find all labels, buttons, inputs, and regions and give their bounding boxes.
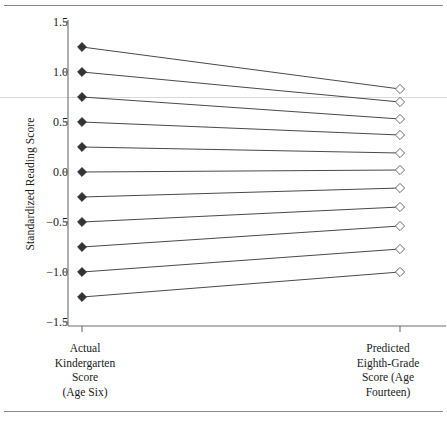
data-point-marker-open: [395, 97, 404, 106]
data-point-marker-filled: [78, 118, 87, 127]
x-axis-category-right: PredictedEighth-GradeScore (AgeFourteen): [330, 341, 446, 399]
data-point-marker-open: [395, 202, 404, 211]
series-line: [82, 97, 400, 119]
data-point-marker-filled: [78, 293, 87, 302]
data-point-marker-filled: [78, 193, 87, 202]
data-point-marker-filled: [78, 143, 87, 152]
data-point-marker-filled: [78, 93, 87, 102]
data-point-marker-filled: [78, 168, 87, 177]
series-line: [82, 207, 400, 222]
figure-canvas: Standardized Reading Score 1.51.00.50.0−…: [0, 0, 447, 424]
x-axis-category-left: ActualKindergartenScore(Age Six): [20, 341, 150, 399]
series-line: [82, 170, 400, 172]
x-category-line: Fourteen): [330, 385, 446, 400]
series-line: [82, 122, 400, 135]
data-point-marker-open: [395, 114, 404, 123]
series-line: [82, 188, 400, 197]
series-line: [82, 272, 400, 297]
x-category-line: Actual: [20, 341, 150, 356]
series-line: [82, 226, 400, 247]
data-point-marker-open: [395, 221, 404, 230]
data-point-marker-open: [395, 244, 404, 253]
x-category-line: Kindergarten: [20, 356, 150, 371]
x-category-line: (Age Six): [20, 385, 150, 400]
series-line: [82, 249, 400, 272]
data-point-marker-filled: [78, 218, 87, 227]
data-point-marker-filled: [78, 68, 87, 77]
x-category-line: Score: [20, 370, 150, 385]
data-point-marker-open: [395, 165, 404, 174]
series-line: [82, 147, 400, 153]
data-point-marker-open: [395, 148, 404, 157]
data-point-marker-open: [395, 267, 404, 276]
data-point-marker-open: [395, 84, 404, 93]
series-line: [82, 72, 400, 102]
data-point-marker-filled: [78, 43, 87, 52]
x-category-line: Predicted: [330, 341, 446, 356]
x-category-line: Score (Age: [330, 370, 446, 385]
data-point-marker-open: [395, 183, 404, 192]
x-category-line: Eighth-Grade: [330, 356, 446, 371]
series-line: [82, 47, 400, 89]
data-point-marker-filled: [78, 243, 87, 252]
data-point-marker-open: [395, 130, 404, 139]
data-point-marker-filled: [78, 268, 87, 277]
